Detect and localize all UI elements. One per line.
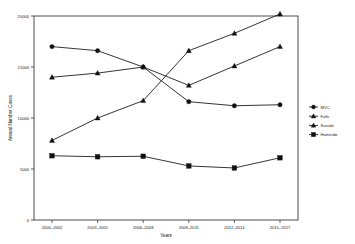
y-tick-label: 20000 <box>18 14 30 19</box>
data-point <box>232 104 236 108</box>
chart-legend: MVCFallsSuicideHomicide <box>309 105 338 138</box>
data-point <box>277 44 282 49</box>
legend-label: Suicide <box>321 123 335 128</box>
data-point <box>278 103 282 107</box>
x-tick-label: 2000–2002 <box>42 225 63 230</box>
chart-figure: 05000100001500020000 2000–20022003–20052… <box>0 0 355 244</box>
data-point <box>50 44 54 48</box>
y-axis-title: Annual Number Cases <box>8 94 13 141</box>
y-tick-label: 5000 <box>20 167 30 172</box>
y-axis-ticks: 05000100001500020000 <box>18 14 34 223</box>
data-point <box>50 153 55 158</box>
legend-marker <box>311 133 315 137</box>
x-tick-label: 2006–2008 <box>133 225 154 230</box>
data-point <box>277 11 282 16</box>
legend-marker <box>312 105 316 109</box>
x-tick-label: 2015–2017 <box>270 225 291 230</box>
legend-item-falls[interactable]: Falls <box>309 114 329 119</box>
data-point <box>141 154 146 159</box>
legend-label: MVC <box>321 105 330 110</box>
y-tick-label: 15000 <box>18 65 30 70</box>
data-point <box>232 166 237 171</box>
y-tick-label: 10000 <box>18 116 30 121</box>
series-suicide <box>49 11 282 142</box>
x-axis-ticks: 2000–20022003–20052006–20082009–20112012… <box>42 220 291 230</box>
data-point <box>49 138 54 143</box>
series-falls <box>49 44 282 87</box>
data-point <box>187 164 192 169</box>
x-tick-label: 2009–2011 <box>179 225 200 230</box>
series-group <box>49 11 282 170</box>
data-point <box>95 48 99 52</box>
legend-label: Falls <box>321 114 330 119</box>
legend-item-suicide[interactable]: Suicide <box>309 123 335 128</box>
x-axis-title: Years <box>160 233 172 238</box>
plot-area-frame <box>34 16 298 220</box>
legend-label: Homicide <box>321 132 339 137</box>
series-homicide <box>50 153 283 170</box>
y-tick-label: 0 <box>27 218 30 223</box>
x-tick-label: 2003–2005 <box>87 225 108 230</box>
legend-item-mvc[interactable]: MVC <box>309 105 330 110</box>
legend-item-homicide[interactable]: Homicide <box>309 132 338 137</box>
x-tick-label: 2012–2014 <box>224 225 245 230</box>
data-point <box>278 155 283 160</box>
line-chart: 05000100001500020000 2000–20022003–20052… <box>0 0 355 244</box>
data-point <box>95 154 100 159</box>
data-point <box>187 99 191 103</box>
